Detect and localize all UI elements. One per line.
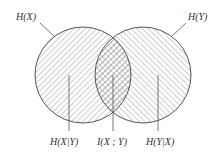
leader-hx [40, 23, 55, 37]
leader-hy [172, 23, 186, 36]
label-hy: H(Y) [187, 11, 208, 23]
label-ixy: I(X ; Y) [96, 136, 128, 148]
venn-diagram: H(X) H(Y) H(X|Y) I(X ; Y) H(Y|X) [0, 0, 224, 155]
label-hx: H(X) [15, 11, 37, 23]
label-hy-given-x: H(Y|X) [145, 136, 175, 148]
label-hx-given-y: H(X|Y) [49, 136, 79, 148]
